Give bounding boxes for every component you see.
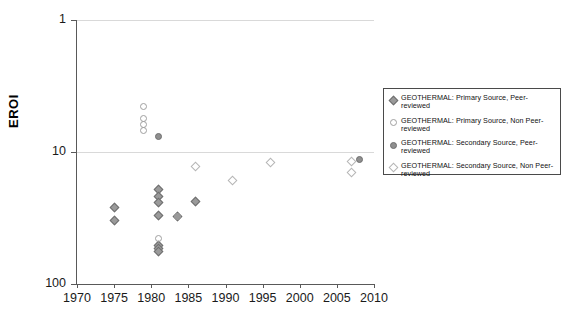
legend-marker-glyph — [388, 163, 398, 173]
data-point — [154, 198, 164, 208]
y-tick-label: 100 — [22, 276, 66, 290]
filled-diamond-icon — [388, 94, 398, 105]
filled-circle-icon — [388, 139, 398, 150]
legend-item: GEOTHERMAL: Secondary Source, Non Peer-r… — [388, 162, 556, 179]
data-point — [191, 162, 201, 172]
data-point — [109, 216, 119, 226]
data-point — [155, 235, 162, 242]
data-point — [140, 121, 147, 128]
data-point — [154, 210, 164, 220]
data-point — [154, 184, 164, 194]
legend-marker-glyph — [390, 142, 397, 149]
data-point — [347, 157, 357, 167]
data-point — [154, 240, 164, 250]
gridline — [77, 152, 374, 153]
x-tick-label: 1970 — [53, 291, 101, 305]
x-tick-label: 1995 — [239, 291, 287, 305]
x-tick-label: 2000 — [276, 291, 324, 305]
legend-item: GEOTHERMAL: Primary Source, Non Peer-rev… — [388, 117, 556, 134]
legend-item: GEOTHERMAL: Secondary Source, Peer-revie… — [388, 139, 556, 156]
data-point — [140, 103, 147, 110]
x-tick-label: 1980 — [127, 291, 175, 305]
y-tick-label: 1 — [22, 12, 66, 26]
y-axis-line — [76, 20, 77, 284]
data-point — [347, 167, 357, 177]
legend-item-label: GEOTHERMAL: Primary Source, Peer-reviewe… — [401, 94, 556, 111]
data-point — [174, 213, 181, 220]
data-point — [140, 127, 147, 134]
legend-marker-glyph — [388, 95, 398, 105]
x-tick-label: 1985 — [164, 291, 212, 305]
y-axis-title: EROI — [6, 94, 21, 128]
x-tick-label: 2010 — [350, 291, 398, 305]
data-point — [154, 247, 164, 257]
x-tick-label: 1990 — [202, 291, 250, 305]
gridline — [77, 20, 374, 21]
x-tick-label: 2005 — [313, 291, 361, 305]
data-point — [356, 156, 363, 163]
open-circle-icon — [388, 117, 398, 128]
x-tick-label: 1975 — [90, 291, 138, 305]
legend-item-label: GEOTHERMAL: Secondary Source, Peer-revie… — [401, 139, 556, 156]
open-diamond-icon — [388, 162, 398, 173]
eroi-scatter-chart: EROI 100101 1970197519801985199019952000… — [0, 0, 566, 316]
legend-item-label: GEOTHERMAL: Secondary Source, Non Peer-r… — [401, 162, 556, 179]
y-tick-label: 10 — [22, 144, 66, 158]
data-point — [154, 191, 164, 201]
data-point — [109, 202, 119, 212]
legend-marker-glyph — [390, 119, 397, 126]
data-point — [172, 212, 182, 222]
legend-item-label: GEOTHERMAL: Primary Source, Non Peer-rev… — [401, 117, 556, 134]
data-point — [155, 133, 162, 140]
data-point — [191, 196, 201, 206]
legend-item: GEOTHERMAL: Primary Source, Peer-reviewe… — [388, 94, 556, 111]
data-point — [228, 175, 238, 185]
data-point — [140, 115, 147, 122]
data-point — [265, 157, 275, 167]
chart-legend: GEOTHERMAL: Primary Source, Peer-reviewe… — [383, 88, 561, 175]
x-axis-line — [76, 284, 375, 285]
data-point — [154, 243, 164, 253]
